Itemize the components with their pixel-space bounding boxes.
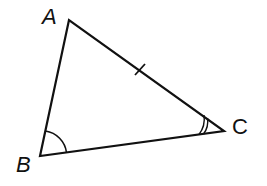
vertex-label-a: A [40, 4, 57, 29]
vertex-label-c: C [232, 114, 248, 139]
vertex-label-b: B [16, 152, 31, 177]
triangle-diagram: A B C [0, 0, 267, 186]
triangle-abc [40, 20, 224, 156]
angle-arc-b [46, 131, 67, 153]
angle-arc-c-outer [199, 115, 204, 135]
